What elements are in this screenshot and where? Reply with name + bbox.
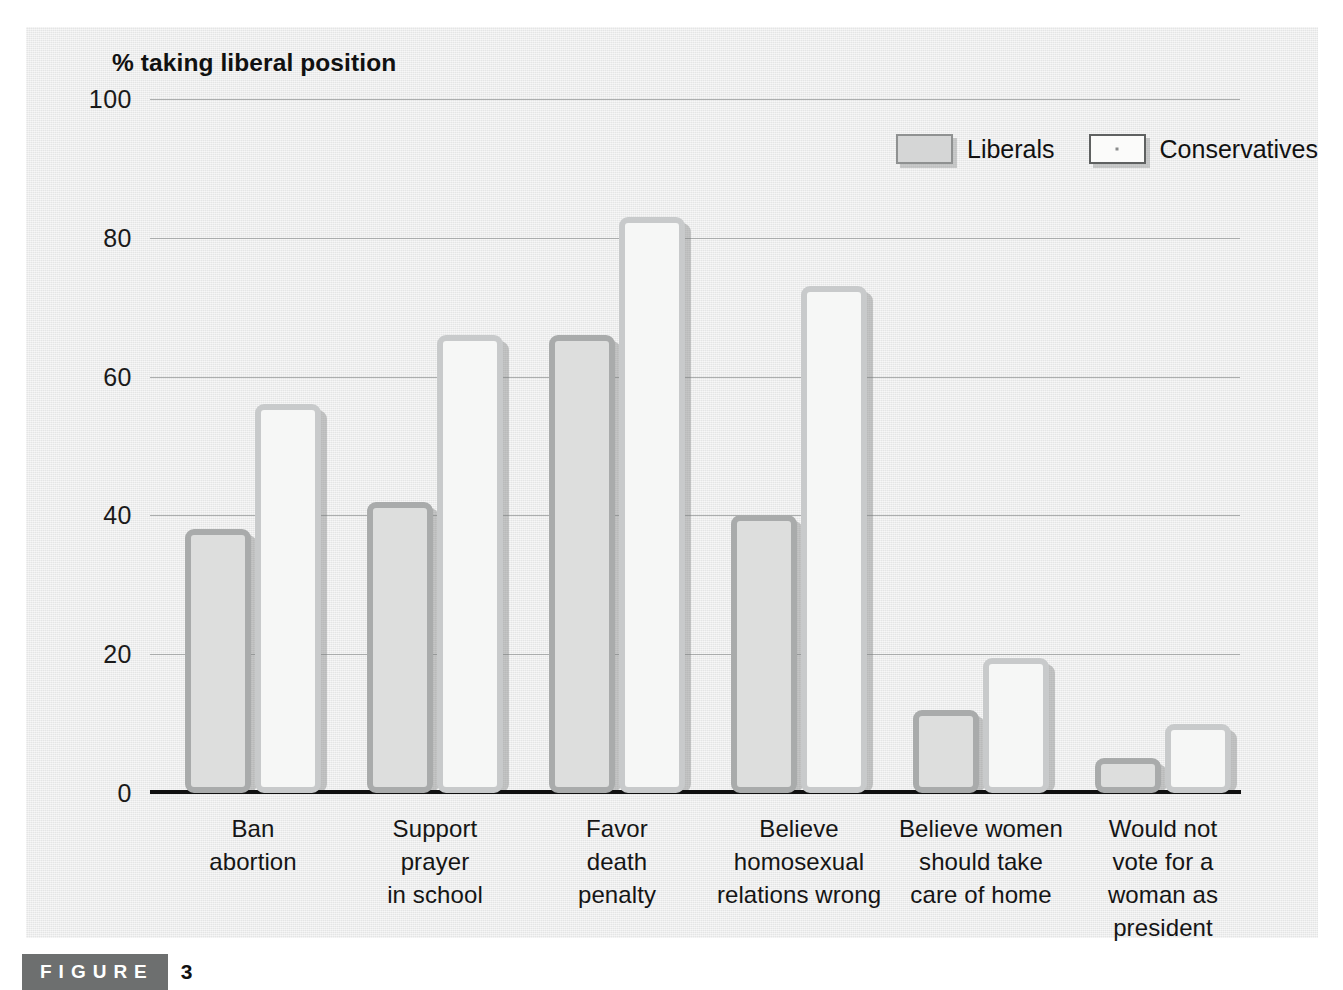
x-axis-category-line: Believe: [694, 812, 904, 845]
bar-conservatives[interactable]: [1165, 724, 1231, 793]
y-axis: 020406080100: [56, 99, 132, 793]
bar-liberals[interactable]: [731, 515, 797, 793]
x-axis-category-line: Would not: [1058, 812, 1268, 845]
plot-area: [150, 99, 1240, 793]
bar-body: [255, 404, 321, 793]
legend-swatch-conservatives: [1089, 134, 1146, 164]
bar-body: [619, 217, 685, 793]
x-axis-category-line: relations wrong: [694, 878, 904, 911]
y-axis-tick-label: 0: [62, 779, 132, 808]
x-axis-category-line: death: [512, 845, 722, 878]
x-axis-category-label: Favordeathpenalty: [512, 812, 722, 911]
bar-group: [549, 99, 689, 793]
figure-number: 3: [181, 960, 193, 984]
x-axis-category-line: abortion: [148, 845, 358, 878]
bar-conservatives[interactable]: [619, 217, 685, 793]
bar-group: [913, 99, 1053, 793]
legend-item-liberals[interactable]: Liberals: [896, 134, 1055, 164]
x-axis-category-line: prayer: [330, 845, 540, 878]
bar-group: [367, 99, 507, 793]
y-axis-tick-label: 60: [62, 362, 132, 391]
x-axis-category-line: Ban: [148, 812, 358, 845]
bar-group: [185, 99, 325, 793]
x-axis-category-line: Support: [330, 812, 540, 845]
legend-label-liberals: Liberals: [967, 135, 1055, 164]
bar-conservatives[interactable]: [437, 335, 503, 793]
legend-label-conservatives: Conservatives: [1160, 135, 1318, 164]
legend-item-conservatives[interactable]: Conservatives: [1089, 134, 1318, 164]
x-axis-category-label: Believehomosexualrelations wrong: [694, 812, 904, 911]
bar-liberals[interactable]: [1095, 758, 1161, 793]
x-axis-category-label: Supportprayerin school: [330, 812, 540, 911]
bar-conservatives[interactable]: [983, 658, 1049, 793]
x-axis-category-line: Believe women: [876, 812, 1086, 845]
bar-body: [367, 502, 433, 793]
x-axis-category-line: president: [1058, 911, 1268, 944]
x-axis-category-line: homosexual: [694, 845, 904, 878]
bar-liberals[interactable]: [185, 529, 251, 793]
figure-tag-label: FIGURE: [22, 954, 168, 990]
x-axis-category-label: Banabortion: [148, 812, 358, 878]
bar-body: [913, 710, 979, 793]
bar-conservatives[interactable]: [255, 404, 321, 793]
x-axis-category-label: Would notvote for awoman aspresident: [1058, 812, 1268, 944]
bar-body: [1095, 758, 1161, 793]
y-axis-tick-label: 20: [62, 640, 132, 669]
chart-title: % taking liberal position: [112, 49, 396, 77]
bar-group: [731, 99, 871, 793]
y-axis-tick-label: 100: [62, 85, 132, 114]
x-axis-category-line: penalty: [512, 878, 722, 911]
x-axis-category-line: care of home: [876, 878, 1086, 911]
x-axis-category-line: vote for a: [1058, 845, 1268, 878]
y-axis-tick-label: 80: [62, 223, 132, 252]
legend-swatch-body: [896, 134, 953, 164]
bar-body: [185, 529, 251, 793]
bar-body: [983, 658, 1049, 793]
x-axis-category-line: should take: [876, 845, 1086, 878]
bar-body: [1165, 724, 1231, 793]
legend-swatch-body: [1089, 134, 1146, 164]
figure-caption: FIGURE 3: [22, 954, 192, 990]
x-axis-category-label: Believe womenshould takecare of home: [876, 812, 1086, 911]
y-axis-tick-label: 40: [62, 501, 132, 530]
bar-body: [731, 515, 797, 793]
bar-body: [549, 335, 615, 793]
bar-liberals[interactable]: [913, 710, 979, 793]
legend-swatch-liberals: [896, 134, 953, 164]
bar-body: [801, 286, 867, 793]
bar-liberals[interactable]: [367, 502, 433, 793]
x-axis-category-line: Favor: [512, 812, 722, 845]
bar-body: [437, 335, 503, 793]
bar-conservatives[interactable]: [801, 286, 867, 793]
bar-liberals[interactable]: [549, 335, 615, 793]
x-axis-category-line: woman as: [1058, 878, 1268, 911]
chart-legend: Liberals Conservatives: [896, 134, 1318, 164]
x-axis-category-line: in school: [330, 878, 540, 911]
bar-group: [1095, 99, 1235, 793]
